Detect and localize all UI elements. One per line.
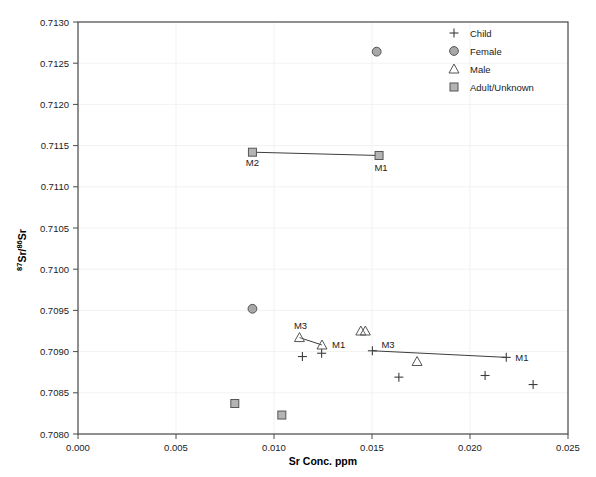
y-axis-title: 87Sr/86Sr	[15, 229, 28, 271]
y-tick-label: 0.7100	[40, 264, 69, 275]
legend-label-adult-unknown: Adult/Unknown	[470, 82, 534, 93]
point-plus	[481, 371, 490, 380]
x-tick-label: 0.020	[458, 442, 482, 453]
point-plus	[394, 373, 403, 382]
y-tick-label: 0.7105	[40, 223, 69, 234]
y-tick-label: 0.7120	[40, 99, 69, 110]
point-square	[248, 148, 256, 156]
connector-lines	[252, 152, 506, 357]
x-axis-tick-labels: 0.0000.0050.0100.0150.0200.025	[66, 442, 580, 453]
point-circle	[248, 304, 257, 313]
legend-marker-triangle	[449, 64, 459, 73]
point-plus	[317, 349, 326, 358]
x-tick-label: 0.000	[66, 442, 90, 453]
x-axis-title: Sr Conc. ppm	[289, 455, 357, 467]
plot-canvas: 0.70800.70850.70900.70950.71000.71050.71…	[0, 0, 596, 477]
legend-marker-plus	[450, 29, 459, 38]
scatter-chart: 0.70800.70850.70900.70950.71000.71050.71…	[0, 0, 596, 477]
y-axis-sup-87: 87	[15, 263, 24, 271]
data-points	[231, 47, 538, 419]
point-plus	[502, 353, 511, 362]
series-female	[248, 47, 381, 313]
point-annotation: M1	[515, 352, 528, 363]
point-square	[375, 151, 383, 159]
point-plus	[298, 352, 307, 361]
y-tick-label: 0.7090	[40, 346, 69, 357]
point-annotation: M1	[332, 339, 345, 350]
legend-label-child: Child	[470, 28, 492, 39]
legend-marker-circle	[450, 47, 459, 56]
x-tick-label: 0.005	[164, 442, 188, 453]
point-annotation: M3	[381, 339, 394, 350]
legend-marker-square	[450, 83, 458, 91]
series-adult-unknown	[231, 148, 383, 419]
point-square	[278, 411, 286, 419]
y-axis-sr-end: Sr	[16, 229, 28, 240]
point-plus	[529, 380, 538, 389]
y-tick-label: 0.7095	[40, 305, 69, 316]
y-axis-sr-slash: Sr/	[16, 248, 28, 262]
y-tick-label: 0.7110	[41, 181, 69, 192]
point-square	[231, 400, 239, 408]
point-plus	[368, 346, 377, 355]
point-annotations: M2M1M3M1M3M1	[246, 157, 529, 363]
y-tick-label: 0.7130	[40, 17, 69, 28]
legend-label-female: Female	[470, 46, 502, 57]
series-male	[294, 326, 422, 365]
x-tick-label: 0.025	[556, 442, 580, 453]
point-annotation: M1	[374, 162, 387, 173]
point-annotation: M3	[294, 320, 307, 331]
x-tick-label: 0.015	[360, 442, 384, 453]
point-triangle	[412, 356, 422, 365]
point-triangle	[317, 340, 327, 349]
point-annotation: M2	[246, 157, 259, 168]
x-axis-title-text: Sr Conc. ppm	[289, 455, 357, 467]
point-triangle	[294, 333, 304, 342]
x-tick-label: 0.010	[262, 442, 286, 453]
M2-M1-square-link	[252, 152, 379, 155]
svg-text:87Sr/86Sr: 87Sr/86Sr	[15, 229, 28, 271]
y-axis-sup-86: 86	[15, 240, 24, 248]
y-tick-label: 0.7115	[41, 140, 69, 151]
y-tick-label: 0.7125	[40, 58, 69, 69]
x-axis-ticks	[78, 434, 568, 439]
legend-label-male: Male	[470, 64, 491, 75]
point-circle	[372, 47, 381, 56]
y-axis-tick-labels: 0.70800.70850.70900.70950.71000.71050.71…	[40, 17, 69, 440]
y-axis-ticks	[73, 22, 78, 434]
y-tick-label: 0.7080	[40, 429, 69, 440]
y-tick-label: 0.7085	[40, 387, 69, 398]
legend: ChildFemaleMaleAdult/Unknown	[449, 28, 534, 93]
